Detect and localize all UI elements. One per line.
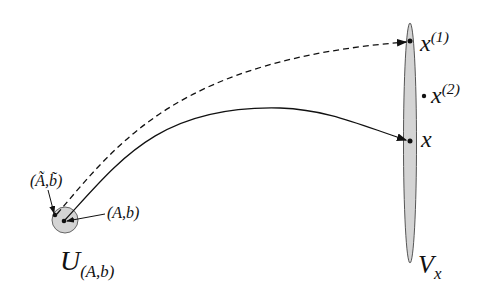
point-x2 [422,94,426,98]
point-x1 [408,39,413,44]
label-x1: x(1) [420,28,449,57]
label-x2: x(2) [431,80,460,109]
label-Vx-sub: x [434,264,442,283]
label-x1-base: x [420,30,431,56]
label-Ab-text: (A,b) [107,204,139,221]
label-x2-base: x [431,82,442,108]
point-Ab-tilde [53,213,58,218]
dashed-path-to-x1 [57,42,406,214]
label-U: U(A,b) [60,245,114,282]
label-Vx: Vx [418,250,441,284]
label-U-base: U [60,245,80,276]
pointer-Ab-tilde [48,190,54,213]
label-x1-sup: (1) [431,28,449,45]
label-x: x [421,126,432,153]
label-U-sub: (A,b) [80,262,114,281]
diagram-canvas: x(1) x(2) x Vx U(A,b) (A,b) (Ã,b̃) [0,0,492,295]
label-x2-sup: (2) [442,80,460,97]
label-Ab: (A,b) [107,204,139,222]
label-x-base: x [421,126,432,152]
point-x [408,139,413,144]
label-Ab-tilde: (Ã,b̃) [30,172,62,190]
label-Ab-tilde-text: (Ã,b̃) [30,172,62,189]
point-Ab [62,219,67,224]
label-Vx-base: V [418,250,434,279]
